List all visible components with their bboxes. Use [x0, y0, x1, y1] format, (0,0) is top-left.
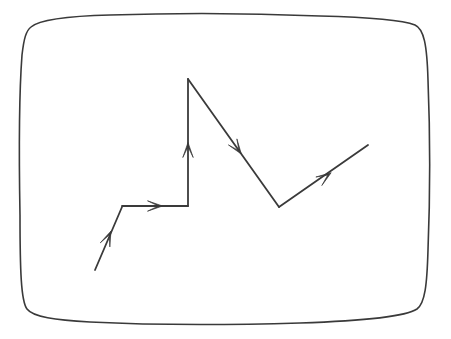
segment-3-vertical-up — [183, 79, 193, 206]
drawing-canvas — [0, 0, 451, 339]
segment-5-diagonal-up-right — [279, 145, 368, 207]
segment-2-horizontal-right — [122, 201, 188, 211]
zigzag-path-figure — [0, 0, 451, 339]
segment-4-line — [188, 79, 279, 207]
segment-4-diagonal-down-right — [188, 79, 279, 207]
segment-1-line — [95, 207, 122, 270]
hand-drawn-frame-border — [19, 14, 429, 325]
segment-1-diagonal-up-right — [95, 207, 122, 270]
